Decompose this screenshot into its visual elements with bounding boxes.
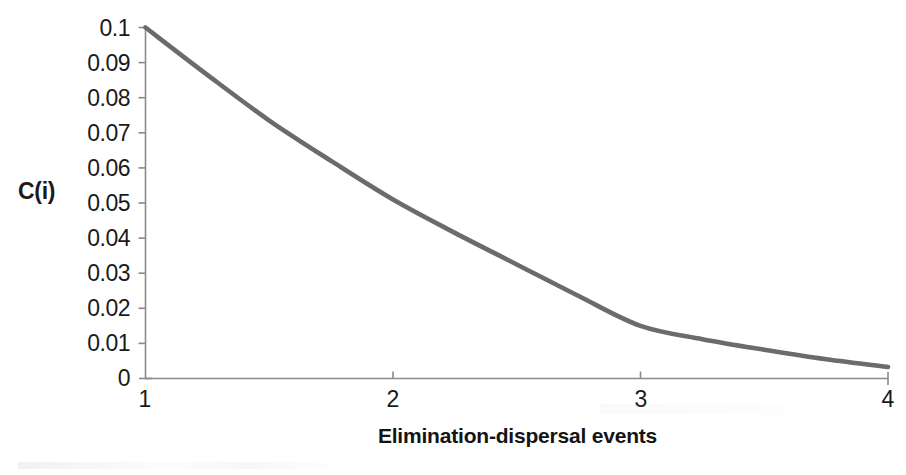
x-axis-ticks bbox=[393, 372, 641, 379]
axis-lines bbox=[139, 27, 888, 385]
data-series-line bbox=[146, 28, 889, 367]
y-axis-ticks bbox=[139, 28, 146, 344]
scan-artifact bbox=[18, 462, 348, 469]
chart-figure: C(i) 0.1 0.09 0.08 0.07 0.06 0.05 0.04 0… bbox=[0, 0, 906, 475]
scan-artifact-secondary bbox=[600, 404, 850, 414]
